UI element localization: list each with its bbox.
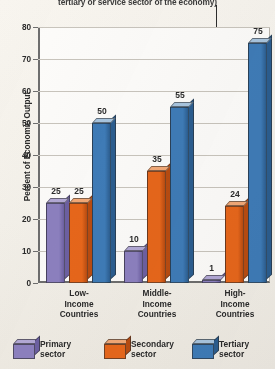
bar-face — [202, 280, 221, 283]
legend-swatch-icon — [13, 344, 35, 359]
y-axis-tick — [33, 155, 38, 156]
bar-face — [92, 123, 111, 283]
legend-label: Tertiarysector — [219, 340, 249, 359]
x-axis-label-line: Countries — [122, 309, 192, 320]
bar-face — [69, 203, 88, 283]
gridline — [38, 59, 270, 60]
legend-label-line: sector — [131, 350, 174, 360]
y-axis-tick-label: 70 — [22, 55, 31, 64]
economic-output-bar-chart: tertiary or service sector of the econom… — [0, 0, 275, 369]
legend-swatch-face — [104, 344, 126, 359]
legend-swatch-face — [13, 344, 35, 359]
y-axis-tick — [33, 91, 38, 92]
bar-face — [124, 251, 143, 283]
legend-swatch-face — [192, 344, 214, 359]
caption-pointer-line — [216, 5, 217, 27]
y-axis-tick — [33, 219, 38, 220]
x-axis-label-line: Income — [200, 299, 270, 310]
bar-value-label: 10 — [129, 234, 138, 244]
y-axis-tick-label: 20 — [22, 215, 31, 224]
y-axis-tick — [33, 251, 38, 252]
bar-primary-group-1: 25 — [46, 203, 65, 283]
bar-side — [189, 98, 194, 279]
x-axis-label-line: Countries — [44, 309, 114, 320]
bar-face — [170, 107, 189, 283]
y-axis-tick — [33, 27, 38, 28]
chart-legend: PrimarysectorSecondarysectorTertiarysect… — [0, 332, 275, 368]
y-axis-tick — [33, 187, 38, 188]
bar-primary-group-2: 10 — [124, 251, 143, 283]
y-axis-tick-label: 50 — [22, 119, 31, 128]
legend-label: Primarysector — [40, 340, 71, 359]
x-axis-label-line: Income — [44, 299, 114, 310]
x-axis-label-line: Countries — [200, 309, 270, 320]
x-axis-category-labels: Low-IncomeCountriesMiddle-IncomeCountrie… — [38, 288, 270, 328]
x-axis-label-1: Low-IncomeCountries — [44, 288, 114, 320]
legend-label-line: sector — [219, 350, 249, 360]
gridline — [38, 123, 270, 124]
gridline — [38, 91, 270, 92]
bar-tertiary-group-2: 55 — [170, 107, 189, 283]
y-axis-tick-label: 0 — [26, 279, 31, 288]
bar-secondary-group-1: 25 — [69, 203, 88, 283]
bar-value-label: 75 — [253, 26, 262, 36]
bar-value-label: 25 — [74, 186, 83, 196]
bar-tertiary-group-1: 50 — [92, 123, 111, 283]
bar-face — [248, 43, 267, 283]
plot-area: 01020304050607080 25255010355512475 — [38, 27, 270, 283]
bar-face — [147, 171, 166, 283]
y-axis-tick — [33, 123, 38, 124]
chart-caption: tertiary or service sector of the econom… — [0, 0, 275, 7]
legend-label: Secondarysector — [131, 340, 174, 359]
bar-side — [267, 34, 272, 279]
x-axis-label-line: Middle- — [122, 288, 192, 299]
bar-value-label: 55 — [175, 90, 184, 100]
bar-secondary-group-2: 35 — [147, 171, 166, 283]
y-axis-tick-label: 30 — [22, 183, 31, 192]
bar-tertiary-group-3: 75 — [248, 43, 267, 283]
x-axis-label-line: Income — [122, 299, 192, 310]
legend-label-line: sector — [40, 350, 71, 360]
legend-item-primary[interactable]: Primarysector — [13, 340, 71, 359]
bar-secondary-group-3: 24 — [225, 206, 244, 283]
bar-value-label: 35 — [152, 154, 161, 164]
bar-value-label: 1 — [209, 263, 214, 273]
bar-value-label: 24 — [230, 189, 239, 199]
gridline — [38, 283, 270, 284]
y-axis-tick — [33, 283, 38, 284]
x-axis-label-2: Middle-IncomeCountries — [122, 288, 192, 320]
legend-swatch-icon — [104, 344, 126, 359]
gridline — [38, 27, 270, 28]
y-axis-tick — [33, 59, 38, 60]
legend-item-secondary[interactable]: Secondarysector — [104, 340, 174, 359]
bar-side — [111, 114, 116, 279]
bar-face — [46, 203, 65, 283]
y-axis-tick-label: 80 — [22, 23, 31, 32]
y-axis-tick-label: 60 — [22, 87, 31, 96]
y-axis-tick-label: 40 — [22, 151, 31, 160]
legend-item-tertiary[interactable]: Tertiarysector — [192, 340, 249, 359]
bar-value-label: 25 — [51, 186, 60, 196]
x-axis-label-line: Low- — [44, 288, 114, 299]
x-axis-label-line: High- — [200, 288, 270, 299]
bar-face — [225, 206, 244, 283]
y-axis-tick-label: 10 — [22, 247, 31, 256]
x-axis-label-3: High-IncomeCountries — [200, 288, 270, 320]
legend-swatch-icon — [192, 344, 214, 359]
bar-primary-group-3: 1 — [202, 280, 221, 283]
bar-value-label: 50 — [97, 106, 106, 116]
